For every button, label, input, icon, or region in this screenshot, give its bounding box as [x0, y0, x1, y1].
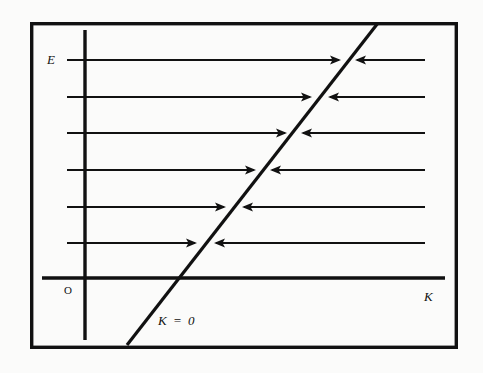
- flow-line: [67, 166, 425, 175]
- nullcline-label: K = 0: [157, 313, 196, 328]
- phase-diagram-figure: E K O K = 0: [0, 0, 483, 373]
- y-axis-label: E: [46, 52, 55, 67]
- x-axis-label: K: [423, 289, 434, 304]
- flow-line: [67, 93, 425, 102]
- flow-line-group: [67, 56, 425, 248]
- outer-border: [32, 24, 457, 348]
- phase-diagram-canvas: E K O K = 0: [0, 0, 483, 373]
- flow-line: [67, 56, 425, 65]
- flow-line: [67, 129, 425, 138]
- flow-line: [67, 203, 425, 212]
- origin-label: O: [64, 284, 72, 296]
- nullcline-line: [127, 23, 378, 345]
- flow-line: [67, 239, 425, 248]
